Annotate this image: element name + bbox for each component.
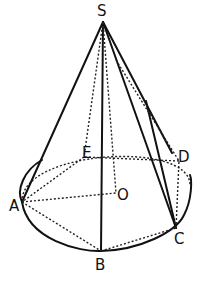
- label-E: E: [82, 144, 91, 162]
- edge-SO: [103, 22, 116, 193]
- cone-diagram: S E D O A C B: [0, 0, 207, 290]
- label-O: O: [117, 186, 129, 204]
- label-B: B: [95, 256, 105, 274]
- label-A: A: [9, 197, 20, 215]
- edge-SC: [103, 22, 176, 228]
- edge-DE: [84, 157, 179, 161]
- edge-SD: [103, 22, 172, 153]
- label-C: C: [174, 230, 184, 248]
- edge-CD: [176, 161, 179, 228]
- label-D: D: [178, 148, 190, 166]
- edge-SB: [101, 22, 103, 251]
- edge-SA: [22, 22, 103, 202]
- edge-BC: [101, 228, 176, 251]
- label-S: S: [97, 2, 107, 20]
